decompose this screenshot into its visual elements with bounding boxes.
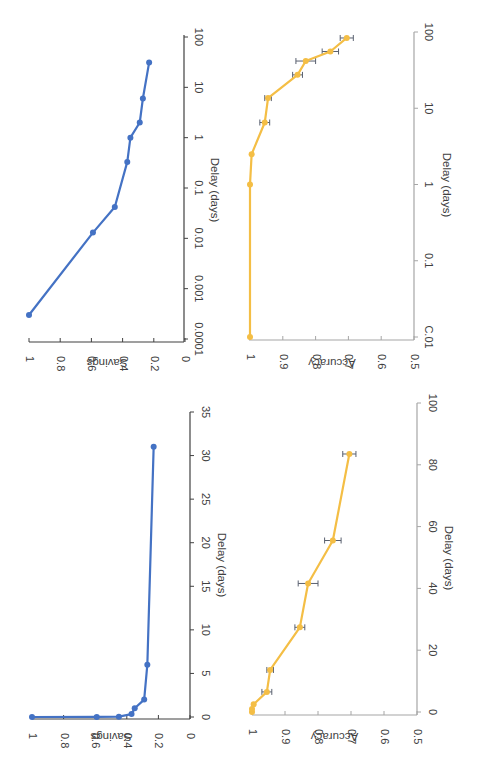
- x-tick-label: 30: [200, 449, 212, 461]
- y-tick-label: 0.8: [59, 733, 71, 748]
- series-line: [250, 38, 347, 337]
- savings-log-chart: 0.00010.0010.010.111010000.20.40.60.81De…: [24, 28, 221, 371]
- x-tick-label: 60: [427, 520, 439, 532]
- x-tick-label: 0: [200, 714, 212, 720]
- x-tick-label: 0.1: [193, 180, 205, 195]
- x-tick-label: 20: [200, 537, 212, 549]
- x-tick-label: 100: [427, 394, 439, 412]
- accuracy-linear-chart: 0204060801000.50.60.70.80.91Delay (days)…: [247, 394, 455, 744]
- y-tick-label: 0.8: [55, 356, 67, 371]
- data-point-marker: [146, 60, 152, 66]
- data-point-marker: [247, 334, 253, 340]
- series-line: [32, 447, 154, 717]
- y-tick-label: 0.9: [278, 354, 290, 369]
- x-tick-label: 5: [200, 670, 212, 676]
- y-tick-label: 0.5: [412, 729, 424, 744]
- data-point-marker: [249, 151, 255, 157]
- x-tick-label: 80: [427, 459, 439, 471]
- y-tick-label: 0.9: [280, 729, 292, 744]
- x-tick-label: 100: [193, 28, 205, 46]
- data-point-marker: [144, 662, 150, 668]
- data-point-marker: [251, 701, 257, 707]
- x-tick-label: 20: [427, 644, 439, 656]
- data-point-marker: [112, 204, 118, 210]
- x-tick-label: 0.1: [423, 253, 435, 268]
- y-axis-title: Savings: [90, 731, 131, 743]
- x-tick-label: 10: [200, 624, 212, 636]
- accuracy-log-chart: C.010.11101000.50.60.70.80.91Delay (days…: [245, 23, 453, 369]
- y-tick-label: 0: [180, 356, 192, 362]
- x-axis-title: Delay (days): [441, 153, 453, 218]
- x-tick-label: C.01: [423, 325, 435, 348]
- x-tick-label: 1: [423, 181, 435, 187]
- data-point-marker: [94, 714, 100, 720]
- y-tick-label: 1: [245, 354, 257, 360]
- savings-linear-chart: 0510152025303500.20.40.60.81Delay (days)…: [27, 406, 228, 748]
- x-axis-title: Delay (days): [209, 158, 221, 223]
- x-tick-label: 1: [193, 135, 205, 141]
- data-point-marker: [29, 714, 35, 720]
- y-tick-label: 1: [24, 356, 36, 362]
- data-point-marker: [330, 538, 336, 544]
- x-axis-title: Delay (days): [216, 533, 228, 598]
- x-axis-title: Delay (days): [443, 526, 455, 591]
- data-point-marker: [267, 667, 273, 673]
- data-point-marker: [124, 159, 130, 165]
- data-point-marker: [132, 705, 138, 711]
- data-point-marker: [26, 312, 32, 318]
- data-point-marker: [137, 120, 143, 126]
- x-tick-label: 25: [200, 493, 212, 505]
- data-point-marker: [297, 624, 303, 630]
- data-point-marker: [116, 714, 122, 720]
- y-tick-label: 0.5: [409, 354, 421, 369]
- data-point-marker: [264, 689, 270, 695]
- data-point-marker: [265, 95, 271, 101]
- x-tick-label: 35: [200, 406, 212, 418]
- series-line: [29, 63, 149, 315]
- x-tick-label: 0.0001: [193, 322, 205, 356]
- x-tick-label: 100: [423, 23, 435, 41]
- y-tick-label: 0.2: [149, 356, 161, 371]
- data-point-marker: [305, 580, 311, 586]
- data-point-marker: [127, 135, 133, 141]
- data-point-marker: [327, 48, 333, 54]
- data-point-marker: [247, 182, 253, 188]
- x-tick-label: 10: [423, 102, 435, 114]
- data-point-marker: [140, 95, 146, 101]
- x-tick-label: 10: [193, 81, 205, 93]
- data-point-marker: [262, 120, 268, 126]
- data-point-marker: [295, 72, 301, 78]
- y-tick-label: 1: [27, 733, 39, 739]
- y-tick-label: 0.6: [376, 354, 388, 369]
- y-tick-label: 1: [247, 729, 259, 735]
- x-tick-label: 0: [427, 709, 439, 715]
- data-point-marker: [346, 451, 352, 457]
- x-tick-label: 0.001: [193, 275, 205, 303]
- data-point-marker: [303, 58, 309, 64]
- x-tick-label: 15: [200, 580, 212, 592]
- x-tick-label: 0.01: [193, 228, 205, 249]
- y-axis-title: Accuracy: [308, 357, 356, 369]
- x-tick-label: 40: [427, 582, 439, 594]
- y-tick-label: 0.6: [379, 729, 391, 744]
- y-tick-label: 0: [185, 733, 197, 739]
- data-point-marker: [90, 230, 96, 236]
- data-point-marker: [141, 697, 147, 703]
- y-axis-title: Accuracy: [311, 731, 359, 743]
- y-tick-label: 0.2: [153, 733, 165, 748]
- y-axis-title: Savings: [86, 357, 127, 369]
- data-point-marker: [129, 711, 135, 717]
- figure-canvas: 0.00010.0010.010.111010000.20.40.60.81De…: [0, 0, 480, 775]
- data-point-marker: [344, 35, 350, 41]
- data-point-marker: [151, 444, 157, 450]
